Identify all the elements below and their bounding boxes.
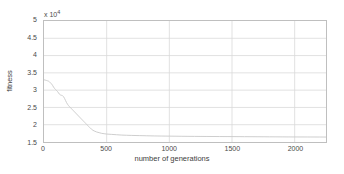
y-tick-label: 2.5 xyxy=(27,104,37,112)
y-tick-label: 3 xyxy=(33,86,37,94)
y-axis-exponent-label: x 104 xyxy=(44,9,60,18)
y-tick-label: 5 xyxy=(33,16,37,24)
x-tick-label: 1000 xyxy=(161,145,177,153)
y-tick-label: 4.5 xyxy=(27,34,37,42)
y-exponent-base: x 10 xyxy=(44,11,57,18)
y-tick-label: 4 xyxy=(33,51,37,59)
y-exponent-power: 4 xyxy=(57,9,60,15)
y-tick-label: 3.5 xyxy=(27,69,37,77)
series-path xyxy=(44,80,326,137)
series-line-best-fitness xyxy=(44,21,326,142)
x-tick-label: 1500 xyxy=(225,145,241,153)
x-tick-label: 500 xyxy=(100,145,112,153)
y-tick-label: 2 xyxy=(33,121,37,129)
x-axis-title: number of generations xyxy=(0,154,344,163)
x-tick-label: 2000 xyxy=(288,145,304,153)
x-tick-label: 0 xyxy=(41,145,45,153)
figure-canvas: x 104 fitness 1.522.533.544.55 050010001… xyxy=(0,0,344,174)
plot-area xyxy=(43,20,327,143)
